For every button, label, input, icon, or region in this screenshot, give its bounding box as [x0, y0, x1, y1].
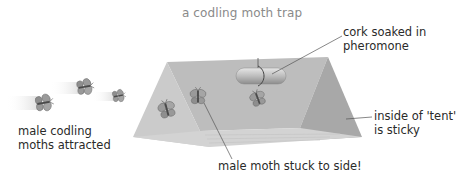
moth-icon: [112, 88, 127, 104]
label-moths-attracted: male codling moths attracted: [18, 124, 111, 152]
label-line: moths attracted: [18, 138, 111, 152]
label-stuck-moth: male moth stuck to side!: [218, 159, 362, 173]
label-line: pheromone: [343, 39, 426, 53]
flying-moths: [6, 76, 127, 114]
label-line: inside of 'tent': [374, 109, 456, 123]
label-sticky: inside of 'tent' is sticky: [374, 109, 456, 137]
label-line: cork soaked in: [343, 25, 426, 39]
label-line: male codling: [18, 124, 111, 138]
moth-icon: [34, 92, 55, 114]
label-cork: cork soaked in pheromone: [343, 25, 426, 53]
label-line: is sticky: [374, 123, 456, 137]
